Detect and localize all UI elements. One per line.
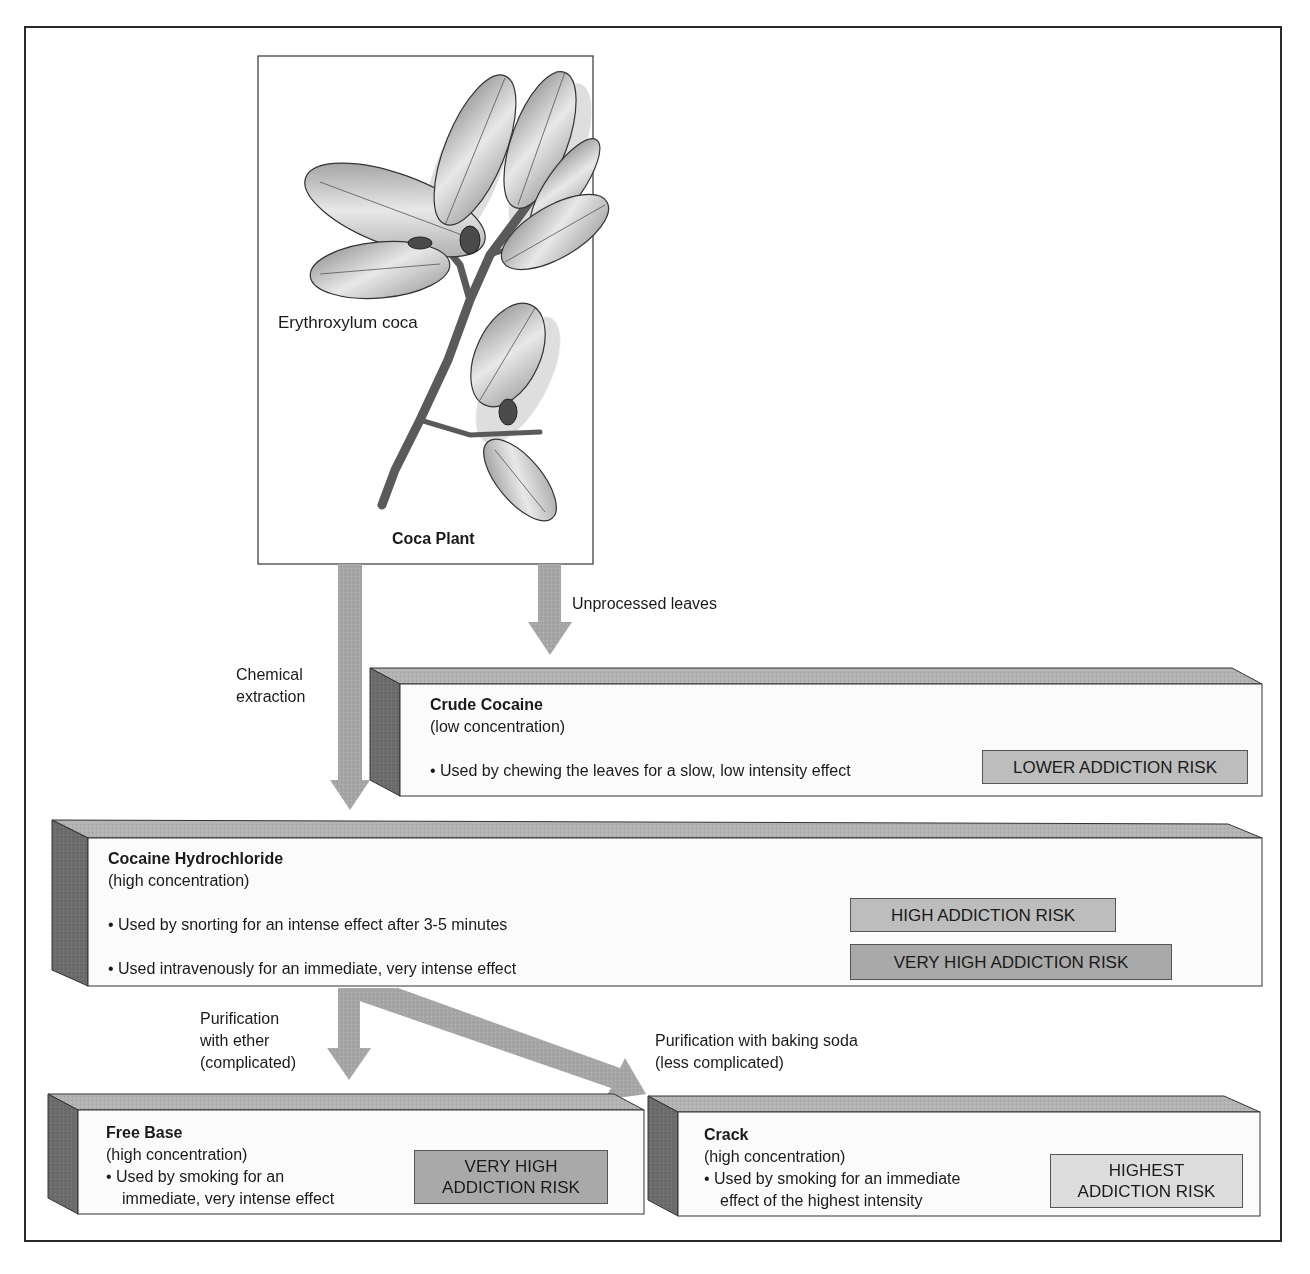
crack-use-line-1: Used by smoking for an immediate (704, 1168, 960, 1190)
crude-cocaine-concentration: (low concentration) (430, 716, 565, 738)
diagram-canvas (0, 0, 1310, 1274)
hydrochloride-concentration: (high concentration) (108, 870, 249, 892)
species-label: Erythroxylum coca (278, 312, 418, 334)
chemical-extraction-label-1: Chemical (236, 664, 303, 686)
hydrochloride-title: Cocaine Hydrochloride (108, 848, 283, 870)
risk-badge-highest: HIGHEST ADDICTION RISK (1050, 1154, 1243, 1208)
crack-title: Crack (704, 1124, 748, 1146)
coca-plant-panel (258, 56, 620, 564)
free-base-use-line-1: Used by smoking for an (106, 1166, 284, 1188)
ether-label-2: with ether (200, 1030, 269, 1052)
risk-badge-free-base-line-2: ADDICTION RISK (442, 1177, 580, 1198)
risk-badge-very-high: VERY HIGH ADDICTION RISK (850, 944, 1172, 980)
unprocessed-leaves-label: Unprocessed leaves (572, 593, 717, 615)
risk-badge-highest-line-1: HIGHEST (1109, 1160, 1185, 1181)
risk-badge-high: HIGH ADDICTION RISK (850, 898, 1116, 932)
hydrochloride-use-intravenous: Used intravenously for an immediate, ver… (108, 958, 516, 980)
chemical-extraction-label-2: extraction (236, 686, 305, 708)
arrow-baking-soda (345, 988, 646, 1100)
ether-label-3: (complicated) (200, 1052, 296, 1074)
crack-use-line-2: effect of the highest intensity (710, 1190, 923, 1212)
ether-label-1: Purification (200, 1008, 279, 1030)
crack-concentration: (high concentration) (704, 1146, 845, 1168)
risk-badge-free-base-line-1: VERY HIGH (465, 1156, 558, 1177)
baking-soda-label-2: (less complicated) (655, 1052, 784, 1074)
crude-cocaine-title: Crude Cocaine (430, 694, 543, 716)
hydrochloride-use-snorting: Used by snorting for an intense effect a… (108, 914, 507, 936)
plant-caption: Coca Plant (392, 528, 475, 550)
arrow-unprocessed-leaves (528, 564, 572, 655)
crude-cocaine-use: Used by chewing the leaves for a slow, l… (430, 760, 851, 782)
free-base-use-line-2: immediate, very intense effect (112, 1188, 334, 1210)
risk-badge-free-base: VERY HIGH ADDICTION RISK (414, 1150, 608, 1204)
free-base-title: Free Base (106, 1122, 183, 1144)
risk-badge-highest-line-2: ADDICTION RISK (1078, 1181, 1216, 1202)
arrow-chemical-extraction (330, 564, 370, 810)
risk-badge-lower: LOWER ADDICTION RISK (982, 750, 1248, 784)
baking-soda-label-1: Purification with baking soda (655, 1030, 858, 1052)
free-base-concentration: (high concentration) (106, 1144, 247, 1166)
